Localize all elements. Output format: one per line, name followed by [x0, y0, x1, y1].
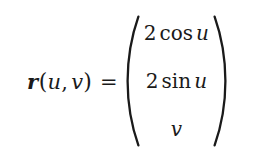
row1-argument: u — [196, 21, 209, 45]
row2-function: sin — [162, 69, 195, 93]
matrix-row: 2cosu — [144, 22, 209, 44]
vector-function-symbol: r — [27, 69, 39, 94]
row3-value: v — [171, 117, 182, 141]
matrix-close-paren-icon — [213, 15, 228, 147]
equals-sign: = — [92, 70, 125, 94]
row2-argument: u — [194, 69, 207, 93]
parameter-u: u — [48, 70, 62, 94]
row1-coefficient: 2 — [144, 21, 160, 45]
matrix-row: v — [171, 118, 182, 140]
argument-comma: , — [61, 70, 71, 94]
matrix-row: 2sinu — [146, 70, 207, 92]
equation-figure: r ( u , v ) = 2cosu 2sinu — [0, 0, 255, 166]
equation-expression: r ( u , v ) = 2cosu 2sinu — [27, 15, 228, 147]
row2-coefficient: 2 — [146, 69, 162, 93]
equation-left-hand-side: r ( u , v ) = — [27, 69, 125, 94]
matrix-entries: 2cosu 2sinu v — [140, 15, 213, 147]
argument-open-paren: ( — [39, 69, 48, 94]
matrix-open-paren-icon — [125, 15, 140, 147]
argument-close-paren: ) — [83, 69, 92, 94]
column-vector: 2cosu 2sinu v — [125, 15, 228, 147]
parameter-v: v — [71, 70, 83, 94]
row1-function: cos — [160, 21, 197, 45]
